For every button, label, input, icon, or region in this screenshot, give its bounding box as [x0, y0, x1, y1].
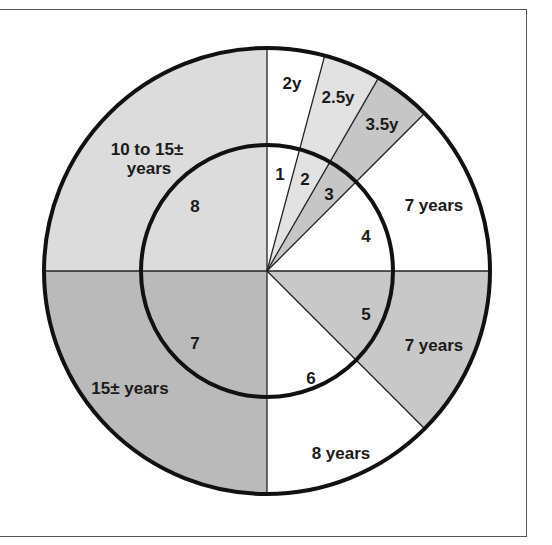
- outer-label-s3: 3.5y: [365, 115, 399, 134]
- outer-label-s4: 7 years: [405, 196, 464, 215]
- outer-label-s2: 2.5y: [321, 88, 355, 107]
- inner-label-7: 7: [190, 334, 199, 353]
- inner-label-2: 2: [300, 170, 309, 189]
- inner-label-4: 4: [361, 227, 371, 246]
- inner-label-3: 3: [324, 185, 333, 204]
- inner-label-5: 5: [361, 305, 370, 324]
- outer-label-s6: 8 years: [312, 444, 371, 463]
- inner-label-8: 8: [190, 197, 199, 216]
- outer-label-s5: 7 years: [405, 336, 464, 355]
- outer-label-s8-line2: years: [127, 159, 171, 178]
- concentric-diagram: 2y 2.5y 3.5y 7 years 7 years 8 years 15±…: [0, 0, 552, 545]
- outer-label-s8-line1: 10 to 15±: [111, 140, 184, 159]
- outer-label-s7: 15± years: [91, 379, 168, 398]
- outer-label-s1: 2y: [283, 74, 302, 93]
- inner-label-1: 1: [275, 165, 284, 184]
- inner-label-6: 6: [306, 369, 315, 388]
